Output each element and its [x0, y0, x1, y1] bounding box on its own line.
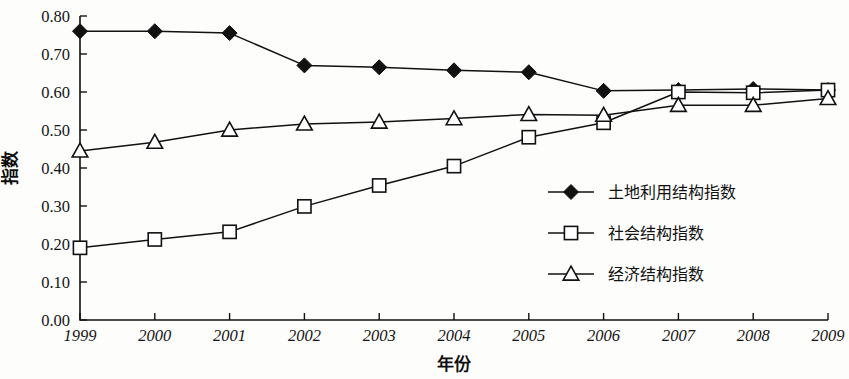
x-axis-ticks: 1999200020012002200320042005200620072008…: [64, 313, 845, 345]
x-tick-label: 2005: [512, 326, 545, 345]
marker-filled-diamond: [564, 185, 579, 200]
legend-label: 土地利用结构指数: [608, 183, 736, 202]
y-tick-label: 0.30: [41, 197, 70, 216]
x-tick-label: 2001: [213, 326, 246, 345]
x-tick-label: 2008: [737, 326, 771, 345]
series-markers: [73, 84, 834, 255]
legend-label: 经济结构指数: [608, 265, 704, 284]
x-tick-label: 2007: [662, 326, 696, 345]
x-tick-label: 2000: [138, 326, 172, 345]
marker-open-triangle: [521, 107, 537, 121]
x-tick-label: 2003: [363, 326, 396, 345]
y-tick-label: 0.40: [41, 159, 70, 178]
x-tick-label: 2009: [812, 326, 845, 345]
marker-open-square: [447, 160, 460, 173]
marker-filled-diamond: [147, 24, 162, 39]
marker-open-square: [148, 233, 161, 246]
y-tick-label: 0.60: [41, 83, 70, 102]
series-markers: [72, 91, 836, 157]
x-axis-title: 年份: [437, 354, 472, 374]
marker-filled-diamond: [73, 24, 88, 39]
marker-open-square: [73, 241, 86, 254]
y-tick-label: 0.20: [41, 235, 70, 254]
marker-filled-diamond: [372, 60, 387, 75]
marker-open-square: [522, 131, 535, 144]
x-tick-label: 2006: [587, 326, 621, 345]
marker-filled-diamond: [222, 26, 237, 41]
marker-filled-diamond: [297, 58, 312, 73]
marker-open-triangle: [563, 266, 579, 280]
series-markers: [73, 24, 836, 99]
legend-label: 社会结构指数: [608, 224, 704, 243]
x-tick-label: 1999: [64, 326, 97, 345]
y-tick-label: 0.50: [41, 121, 70, 140]
x-tick-label: 2004: [438, 326, 471, 345]
marker-open-square: [223, 225, 236, 238]
legend-item: 经济结构指数: [548, 265, 704, 284]
y-tick-label: 0.10: [41, 273, 70, 292]
series-line: [80, 31, 828, 91]
y-tick-label: 0.70: [41, 45, 70, 64]
marker-open-square: [564, 226, 577, 239]
legend-item: 土地利用结构指数: [548, 183, 736, 202]
chart-legend: 土地利用结构指数社会结构指数经济结构指数: [548, 183, 736, 284]
marker-open-triangle: [671, 98, 687, 112]
marker-open-square: [373, 179, 386, 192]
y-axis-title: 指数: [0, 150, 20, 185]
marker-filled-diamond: [521, 65, 536, 80]
marker-filled-diamond: [447, 63, 462, 78]
legend-item: 社会结构指数: [548, 224, 704, 243]
chart-container: 0.000.100.200.300.400.500.600.700.80 199…: [0, 0, 849, 379]
chart-series: [80, 31, 828, 91]
marker-open-square: [298, 200, 311, 213]
line-chart: 0.000.100.200.300.400.500.600.700.80 199…: [0, 0, 849, 379]
x-tick-label: 2002: [288, 326, 321, 345]
marker-filled-diamond: [596, 83, 611, 98]
y-tick-label: 0.80: [41, 7, 70, 26]
series-group: [72, 24, 836, 255]
